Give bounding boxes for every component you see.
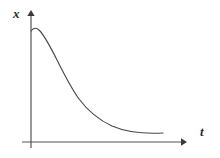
x-axis-label: t [200, 125, 204, 138]
arrow-up-icon [27, 10, 34, 16]
decay-curve-path [31, 28, 163, 133]
arrow-right-icon [181, 138, 187, 146]
decay-curve-figure: x t [0, 0, 220, 158]
plot-area [0, 0, 220, 158]
y-axis-label: x [13, 7, 20, 20]
